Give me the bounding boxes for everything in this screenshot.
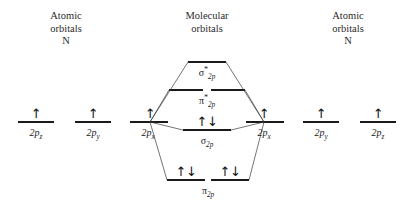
label-2py-right-sub: y [324,133,327,141]
heading-right-atomic-orbitals: Atomic orbitals N [300,10,396,48]
label-2pz-right-base: 2p [372,127,382,138]
heading-left-atomic-orbitals: Atomic orbitals N [18,10,114,48]
electrons-pi-2p-bonding-a: ↑↓ [166,165,206,178]
label-pi-sub: 2p [207,191,214,199]
label-2py-left: 2py [73,128,113,138]
label-2pz-left-sub: z [40,133,43,141]
label-2px-left: 2px [128,128,168,138]
label-2px-right-base: 2p [257,127,267,138]
label-2px-right: 2px [244,128,284,138]
electrons-2pz-left: ↑ [16,107,56,120]
electrons-sigma-2p-bonding: ↑↓ [187,115,227,128]
label-2py-right: 2py [301,128,341,138]
molecular-orbital-diagram: Atomic orbitals N Molecular orbitals Ato… [0,0,414,214]
label-2py-right-base: 2p [314,127,324,138]
electrons-pi-2p-bonding-b: ↑↓ [210,165,250,178]
electrons-2py-right: ↑ [301,107,341,120]
label-2px-right-sub: x [267,133,270,141]
label-sigma-2p-antibonding: σ*2p [187,68,227,78]
label-pi-2p-antibonding: π*2p [187,96,227,106]
label-sigma-sub: 2p [206,141,213,149]
electrons-2px-left: ↑ [130,107,170,120]
label-sigma-2p-bonding: σ2p [187,136,227,146]
label-2px-left-sub: x [151,133,154,141]
electrons-2px-right: ↑ [244,107,284,120]
label-sigma-star-sub: 2p [208,73,215,81]
heading-molecular-orbitals: Molecular orbitals [159,10,255,35]
label-2py-left-base: 2p [86,127,96,138]
label-2pz-left: 2pz [16,128,56,138]
label-2py-left-sub: y [96,133,99,141]
label-2pz-left-base: 2p [30,127,40,138]
label-pi-star-sub: 2p [208,101,215,109]
electrons-2py-left: ↑ [73,107,113,120]
label-2pz-right-sub: z [382,133,385,141]
label-2px-left-base: 2p [141,127,151,138]
electrons-2pz-right: ↑ [358,107,398,120]
label-2pz-right: 2pz [358,128,398,138]
label-pi-2p-bonding: π2p [188,186,228,196]
